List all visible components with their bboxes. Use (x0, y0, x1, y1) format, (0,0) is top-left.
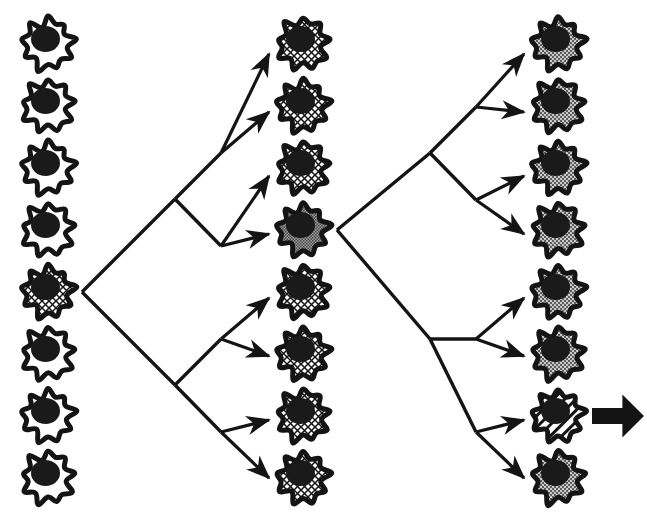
cell-generation-1-2 (22, 140, 77, 195)
cell-nucleus (541, 150, 570, 176)
tree-left-trunk-upper (82, 199, 175, 292)
cell-nucleus (286, 274, 315, 300)
tree-right-arrow-3 (476, 200, 524, 234)
tree-right-arrow-4 (476, 298, 524, 339)
cell-nucleus (31, 274, 60, 300)
cell-layer (22, 16, 587, 506)
cell-generation-3-7 (532, 451, 585, 506)
cell-nucleus (286, 88, 315, 114)
cell-nucleus (286, 150, 315, 176)
cell-generation-2-0 (279, 18, 331, 70)
output-arrow-layer (592, 394, 644, 437)
cell-nucleus (541, 212, 570, 238)
tree-right-arrow-6 (476, 420, 524, 432)
cell-nucleus (541, 274, 570, 300)
tree-left-arrow-4 (221, 298, 269, 339)
tree-left-arrow-7 (221, 432, 269, 478)
cell-nucleus (286, 460, 315, 486)
cell-generation-2-6 (278, 389, 330, 443)
cell-generation-1-1 (23, 80, 75, 132)
cell-generation-2-5 (277, 327, 332, 381)
cell-generation-2-4 (278, 265, 329, 318)
bold-output-arrow (592, 394, 644, 437)
cell-generation-3-5 (533, 327, 585, 381)
lineage-arrows (221, 54, 524, 478)
figure-canvas (0, 0, 647, 527)
tree-left-arrow-1 (221, 112, 269, 153)
cell-nucleus (541, 26, 570, 52)
cell-nucleus (541, 336, 570, 362)
cell-nucleus (286, 336, 315, 362)
tree-right-trunk-upper (337, 153, 430, 230)
cell-generation-1-0 (22, 16, 77, 72)
cell-generation-2-7 (277, 451, 332, 504)
cell-nucleus (31, 150, 60, 176)
cell-nucleus (541, 460, 570, 486)
lineage-lines (82, 107, 476, 432)
cell-nucleus (541, 398, 570, 424)
cell-nucleus (31, 398, 60, 424)
tree-right-branch-l2 (430, 339, 476, 432)
cell-generation-1-3 (23, 204, 75, 256)
cell-lineage-figure (0, 0, 647, 527)
tree-right-arrow-1 (476, 107, 524, 112)
cell-generation-3-6 (532, 390, 586, 442)
tree-left-branch-u2 (175, 199, 221, 246)
cell-generation-3-1 (533, 80, 585, 133)
tree-right-arrow-5 (476, 339, 524, 356)
cell-generation-1-6 (22, 388, 77, 442)
tree-right-branch-u2 (430, 153, 476, 200)
cell-generation-1-4 (22, 264, 77, 319)
cell-generation-3-0 (531, 17, 587, 71)
tree-right-arrow-7 (476, 432, 524, 478)
tree-right-arrow-0 (476, 54, 524, 107)
cell-nucleus (31, 460, 60, 486)
tree-left-arrow-0 (221, 54, 269, 153)
tree-right-trunk-lower (337, 230, 430, 339)
cell-generation-2-3 (277, 203, 332, 257)
cell-generation-2-2 (279, 142, 330, 195)
tree-left-branch-u1 (175, 153, 221, 199)
cell-generation-2-1 (276, 78, 331, 133)
tree-right-branch-u1 (430, 107, 476, 153)
tree-left-trunk-lower (82, 292, 175, 385)
cell-nucleus (31, 336, 60, 362)
cell-nucleus (286, 398, 315, 424)
tree-right-arrow-2 (476, 176, 524, 200)
tree-left-arrow-5 (221, 339, 269, 356)
cell-nucleus (286, 212, 315, 238)
tree-left-arrow-6 (221, 420, 269, 432)
cell-generation-1-7 (24, 451, 75, 505)
cell-generation-1-5 (24, 328, 75, 381)
cell-nucleus (31, 88, 60, 114)
cell-nucleus (31, 26, 60, 52)
cell-nucleus (286, 26, 315, 52)
cell-nucleus (541, 88, 570, 114)
cell-generation-3-3 (533, 203, 585, 257)
cell-generation-3-4 (532, 266, 587, 319)
tree-left-branch-l1 (175, 339, 221, 385)
cell-nucleus (31, 212, 60, 238)
cell-generation-3-2 (532, 141, 588, 195)
tree-left-branch-l2 (175, 385, 221, 432)
